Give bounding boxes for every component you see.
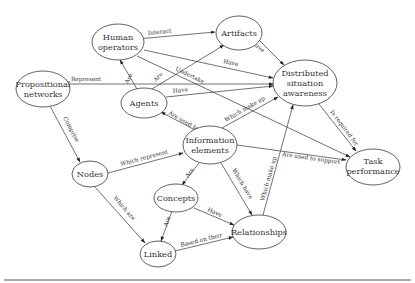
node-distributed-situation-awareness: Distributed situation awareness: [273, 60, 337, 106]
node-label-line: awareness: [283, 88, 327, 98]
label-agents-are-artifacts: Are: [152, 71, 164, 84]
label-comprise: Comprise: [61, 116, 81, 145]
edge-agents-are-artifacts: [152, 45, 224, 89]
label-interact: Interact: [147, 27, 172, 36]
node-label: Concepts: [157, 193, 196, 203]
label-ie-are: Are: [183, 166, 195, 179]
label-concepts-are: Are: [162, 215, 172, 228]
node-label: Relationships: [231, 227, 287, 237]
node-label: Agents: [129, 98, 159, 108]
edge-rel-which-make-up: [263, 105, 293, 215]
node-label: Artifacts: [220, 28, 257, 38]
node-label-line: performance: [346, 166, 399, 176]
label-ie-which-make-up: Which make up: [224, 95, 267, 124]
label-agents-have: Have: [172, 86, 188, 94]
label-based-on-their: Based on their: [180, 232, 223, 248]
label-are-used-to-support: Are used to support: [281, 151, 341, 166]
edge-artifacts-have-dsa: [260, 41, 284, 65]
node-label-line: situation: [287, 78, 324, 88]
label-human-have: Have: [223, 58, 240, 67]
node-label-line: Propositional: [16, 79, 71, 89]
concept-map-diagram: Interact Have Have Undertake Are Are Hav…: [0, 0, 415, 283]
edge-is-required-for: [319, 104, 356, 151]
node-label-line: Task: [364, 156, 384, 166]
label-which-have: Which have: [231, 167, 254, 200]
node-label-line: networks: [24, 89, 62, 99]
node-linked: Linked: [140, 241, 176, 267]
node-label-line: Information: [185, 135, 235, 145]
node-label: Linked: [144, 249, 172, 259]
node-nodes: Nodes: [72, 161, 108, 187]
node-label-line: operators: [98, 42, 138, 52]
node-label: Nodes: [77, 169, 103, 179]
label-which-are: Which are: [112, 195, 137, 222]
label-agents-are-human: Are: [123, 72, 134, 85]
label-undertake: Undertake: [175, 66, 206, 85]
node-artifacts: Artifacts: [216, 16, 262, 50]
node-concepts: Concepts: [154, 184, 198, 212]
label-which-represent: Which represent: [120, 148, 170, 168]
label-is-required-for: Is required for: [328, 109, 359, 148]
node-propositional-networks: Propositional networks: [16, 71, 71, 107]
node-agents: Agents: [121, 88, 167, 118]
node-label-line: Human: [103, 32, 134, 42]
node-label-line: Distributed: [281, 68, 328, 78]
node-task-performance: Task performance: [346, 149, 400, 185]
node-relationships: Relationships: [231, 215, 287, 249]
node-human-operators: Human operators: [92, 24, 144, 60]
node-information-elements: Information elements: [183, 126, 237, 164]
label-represent: Represent: [71, 76, 102, 83]
node-label-line: elements: [191, 145, 229, 155]
label-concepts-have: Have: [207, 206, 224, 218]
edge-which-are: [95, 187, 145, 243]
